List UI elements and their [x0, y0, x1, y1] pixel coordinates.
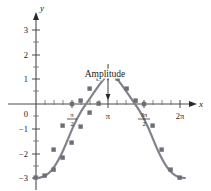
- data-point: [69, 140, 73, 144]
- graph-canvas: y x 3 2 1 0 −1 −2 −3 π 2 π 3π 2 2π Ampli…: [0, 0, 211, 191]
- x-tick-label-pi-over-2: π 2: [67, 111, 77, 127]
- data-point: [42, 173, 46, 177]
- x-tick-label-3pi-over-2: 3π 2: [138, 111, 150, 127]
- data-point: [60, 123, 64, 127]
- y-tick-label-1: 1: [24, 74, 28, 84]
- data-point: [142, 102, 146, 106]
- data-point: [96, 101, 100, 105]
- y-tick-label-3: 3: [24, 25, 28, 35]
- x-tick-label-2pi: 2π: [176, 111, 185, 121]
- y-axis-label: y: [39, 3, 44, 13]
- fraction-denominator: 2: [142, 120, 145, 127]
- data-point: [177, 175, 181, 179]
- data-point: [124, 86, 128, 90]
- fraction-numerator: π: [70, 111, 74, 118]
- data-point: [133, 98, 137, 102]
- amplitude-arrowhead-down: [106, 94, 111, 101]
- x-axis-label: x: [198, 99, 203, 109]
- data-point: [60, 155, 64, 159]
- data-point: [78, 124, 82, 128]
- data-point: [87, 86, 91, 90]
- data-point: [150, 123, 154, 127]
- data-point: [51, 147, 55, 151]
- trig-graph-figure: y x 3 2 1 0 −1 −2 −3 π 2 π 3π 2 2π Ampli…: [0, 0, 211, 191]
- data-point: [33, 175, 37, 179]
- y-tick-label-neg3: −3: [19, 173, 28, 183]
- fraction-numerator: 3π: [141, 111, 148, 118]
- cosine-curve: [36, 74, 185, 178]
- data-point: [87, 110, 91, 114]
- x-tick-label-pi: π: [106, 111, 111, 121]
- x-axis-arrowhead: [189, 101, 197, 107]
- y-tick-label-0: 0: [24, 109, 28, 119]
- y-tick-label-neg1: −1: [19, 124, 28, 134]
- y-axis-arrowhead: [33, 12, 39, 20]
- data-point: [51, 167, 55, 171]
- y-tick-label-2: 2: [24, 50, 28, 60]
- data-point: [159, 147, 163, 151]
- data-point: [168, 167, 172, 171]
- data-point: [78, 98, 82, 102]
- amplitude-label: Amplitude: [85, 69, 126, 79]
- fraction-denominator: 2: [70, 120, 73, 127]
- data-point: [70, 102, 74, 106]
- y-tick-label-neg2: −2: [19, 149, 28, 159]
